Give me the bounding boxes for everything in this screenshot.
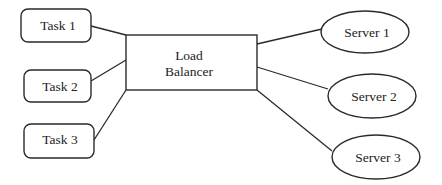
edge-balancer-server1 [257,29,322,44]
task-label: Task 3 [42,132,78,147]
edge-task2-balancer [91,60,126,81]
task-node-2: Task 2 [24,70,91,102]
task-node-1: Task 1 [21,9,91,42]
server-node-1: Server 1 [321,11,409,53]
edge-task3-balancer [94,90,126,140]
server-node-3: Server 3 [332,135,420,179]
load-balancer-diagram: Task 1 Task 2 Task 3 Load Balancer Serve… [0,0,442,185]
load-balancer-node: Load Balancer [126,35,257,90]
server-node-2: Server 2 [328,74,416,118]
server-label: Server 2 [351,89,396,104]
server-label: Server 1 [344,25,389,40]
edge-balancer-server3 [257,90,332,151]
server-label: Server 3 [355,150,401,165]
balancer-label-line2: Balancer [165,64,213,79]
edge-balancer-server2 [257,67,328,89]
balancer-label-line1: Load [175,48,203,63]
task-label: Task 2 [42,79,77,94]
edge-task1-balancer [91,26,126,35]
task-node-3: Task 3 [24,124,94,158]
task-label: Task 1 [40,18,75,33]
